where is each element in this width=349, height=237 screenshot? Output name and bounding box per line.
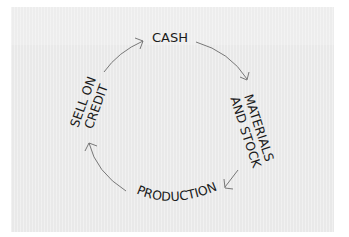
arrow-sell-to-cash — [104, 38, 143, 72]
node-cash-label: CASH — [152, 30, 188, 45]
arrow-cash-to-materials — [196, 42, 249, 80]
node-materials: MATERIALS AND STOCK — [227, 90, 278, 170]
node-sell: SELL ON CREDIT — [67, 74, 112, 134]
node-production-textpath: PRODUCTION — [135, 179, 219, 204]
arrow-production-to-sell — [85, 143, 126, 191]
node-production-label: PRODUCTION — [135, 179, 219, 204]
arrow-materials-to-production — [224, 170, 238, 189]
cycle-diagram: CASH MATERIALS AND STOCK PRODUCTION SELL… — [0, 0, 349, 237]
